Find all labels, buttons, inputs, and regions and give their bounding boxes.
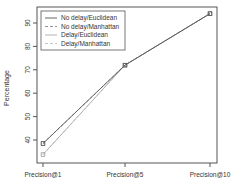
y-tick-label: 60: [24, 89, 31, 97]
y-axis-label: Percentage: [3, 70, 11, 106]
legend-label: Delay/Manhattan: [61, 40, 111, 48]
legend: No delay/EuclideanNo delay/ManhattanDela…: [41, 11, 125, 50]
y-tick-label: 90: [24, 19, 31, 27]
y-tick-label: 50: [24, 113, 31, 121]
x-tick-label: Precision@5: [107, 171, 144, 178]
legend-label: Delay/Euclidean: [61, 31, 108, 39]
legend-label: No delay/Euclidean: [61, 14, 117, 22]
y-tick-label: 80: [24, 42, 31, 50]
x-tick-label: Precision@10: [190, 171, 231, 178]
line-chart: 405060708090 Precision@1Precision@5Preci…: [0, 0, 234, 188]
y-tick-label: 70: [24, 66, 31, 74]
x-tick-label: Precision@1: [25, 171, 62, 178]
legend-label: No delay/Manhattan: [61, 23, 120, 31]
x-axis: Precision@1Precision@5Precision@10: [25, 163, 231, 178]
y-tick-label: 40: [24, 136, 31, 144]
y-axis: 405060708090: [24, 19, 37, 144]
